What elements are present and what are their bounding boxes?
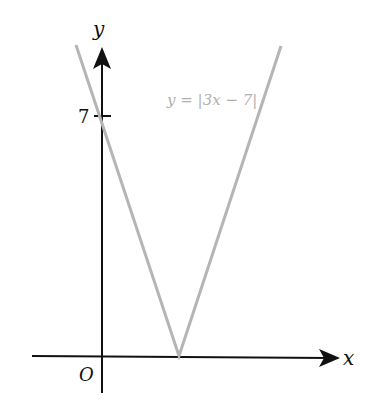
x-axis-label: x: [343, 346, 354, 370]
x-axis: [32, 356, 330, 358]
origin-label: O: [79, 364, 94, 385]
graph-canvas: y x O 7 y = |3x − 7|: [0, 0, 373, 408]
y-tick-label-7: 7: [78, 106, 89, 127]
y-axis-label: y: [92, 17, 105, 41]
curve-label: y = |3x − 7|: [166, 91, 257, 109]
